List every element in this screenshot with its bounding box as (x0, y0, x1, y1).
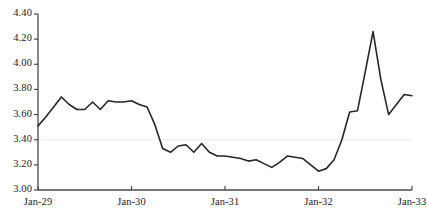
x-axis-tick-label: Jan-30 (102, 196, 162, 207)
chart-plot-area (0, 0, 427, 220)
data-series-line (38, 32, 412, 172)
y-axis-tick-label: 3.20 (0, 158, 32, 169)
y-axis-tick-label: 3.00 (0, 183, 32, 194)
y-axis-tick-label: 3.40 (0, 133, 32, 144)
y-axis-tick-label: 3.60 (0, 108, 32, 119)
x-axis-tick-label: Jan-32 (289, 196, 349, 207)
x-axis-tick-label: Jan-33 (382, 196, 427, 207)
y-axis-tick-label: 4.40 (0, 7, 32, 18)
x-axis-tick-label: Jan-31 (195, 196, 255, 207)
y-axis-tick-label: 3.80 (0, 82, 32, 93)
x-axis-tick-label: Jan-29 (8, 196, 68, 207)
y-axis-tick-label: 4.20 (0, 32, 32, 43)
y-axis-tick-label: 4.00 (0, 57, 32, 68)
line-chart: 3.003.203.403.603.804.004.204.40 Jan-29J… (0, 0, 427, 220)
